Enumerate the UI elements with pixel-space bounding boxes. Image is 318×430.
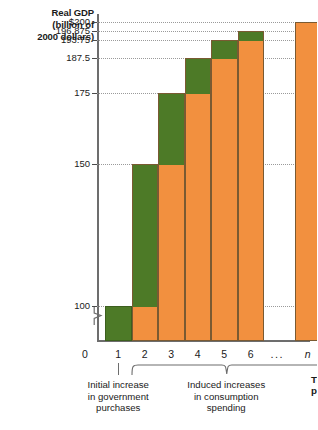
x-tick-label-6: 6	[238, 348, 265, 360]
y-tick-200	[92, 22, 97, 23]
x-tick-label-1: 1	[105, 348, 132, 360]
y-tick-label-187.5: 187.5	[10, 53, 90, 63]
y-tick-150	[92, 164, 97, 165]
y-axis-line	[97, 14, 99, 341]
x-axis-title-line-2: period	[311, 385, 317, 396]
y-tick-187.5	[92, 58, 97, 59]
bar-segment-base-n	[296, 23, 318, 340]
x-tick-label-n: n	[295, 348, 318, 360]
x-tick-label-3: 3	[158, 348, 185, 360]
bar-segment-increment-4	[186, 59, 211, 94]
initial-increase-pointer	[118, 363, 119, 375]
y-tick-label-100: 100	[10, 301, 90, 311]
x-axis-title: Time period	[311, 374, 317, 397]
bar-segment-increment-3	[159, 94, 184, 165]
annotation-induced-increases: Induced increases in consumption spendin…	[166, 379, 286, 414]
bar-segment-increment-1	[106, 307, 131, 340]
induced-increases-brace	[131, 362, 318, 375]
annotation-initial-line-2: in government	[62, 391, 174, 403]
x-tick-label-0: 0	[75, 348, 95, 360]
plot-area: 0123456...n	[97, 14, 304, 341]
bar-segment-base-3	[159, 165, 184, 340]
y-tick-193.75	[92, 40, 97, 41]
bar-segment-increment-2	[133, 165, 158, 307]
annotation-initial-line-3: purchases	[62, 402, 174, 414]
gridline-196.875	[97, 31, 308, 32]
gridline-193.75	[97, 40, 308, 41]
bar-period-4	[185, 58, 212, 341]
annotation-induced-line-3: spending	[166, 402, 286, 414]
brace-shape	[131, 363, 318, 376]
y-tick-175	[92, 93, 97, 94]
y-tick-label-150: 150	[10, 159, 90, 169]
bar-segment-base-4	[186, 94, 211, 340]
bar-segment-base-2	[133, 307, 158, 340]
bar-period-n	[295, 22, 318, 341]
annotation-initial-line-1: Initial increase	[62, 379, 174, 391]
y-tick-196.875	[92, 31, 97, 32]
y-tick-label-193.75: 193.75	[10, 35, 90, 45]
bar-period-6	[238, 31, 265, 341]
multiplier-effect-chart: Real GDP (billion of 2000 dollars) 01234…	[0, 0, 317, 430]
bar-segment-increment-5	[212, 41, 237, 59]
x-tick-label-ellipsis: ...	[264, 348, 291, 360]
bar-period-2	[132, 164, 159, 341]
x-tick-label-4: 4	[185, 348, 212, 360]
x-axis-title-line-1: Time	[311, 374, 317, 385]
y-tick-label-175: 175	[10, 88, 90, 98]
bar-period-5	[211, 40, 238, 341]
bar-segment-base-6	[239, 41, 264, 340]
axis-break-icon	[92, 306, 104, 326]
bar-period-1	[105, 306, 132, 341]
annotation-induced-line-1: Induced increases	[166, 379, 286, 391]
annotation-initial-increase: Initial increase in government purchases	[62, 379, 174, 414]
x-tick-label-2: 2	[132, 348, 159, 360]
gridline-200	[97, 22, 308, 23]
bar-segment-increment-6	[239, 32, 264, 41]
y-tick-100	[92, 306, 97, 307]
x-tick-label-5: 5	[211, 348, 238, 360]
annotation-induced-line-2: in consumption	[166, 391, 286, 403]
bar-period-3	[158, 93, 185, 341]
bar-segment-base-5	[212, 59, 237, 340]
